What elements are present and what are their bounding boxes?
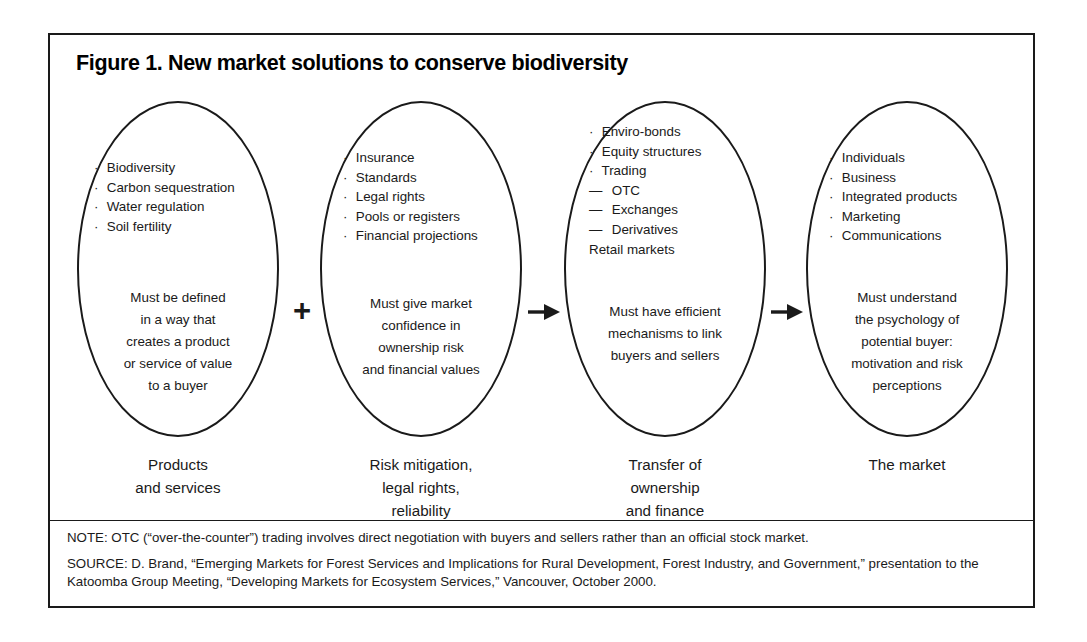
bullet-item: · Biodiversity xyxy=(94,158,266,178)
figure-frame: Figure 1. New market solutions to conser… xyxy=(48,33,1035,608)
bullet-label: Carbon sequestration xyxy=(103,180,235,195)
bullet-label: Individuals xyxy=(838,150,905,165)
bullet-item: · Communications xyxy=(829,226,995,246)
bullet-dot-icon: · xyxy=(94,178,103,198)
stage-description: Must understandthe psychology ofpotentia… xyxy=(812,287,1002,397)
bullet-dot-icon: · xyxy=(343,226,352,246)
bullet-label: Communications xyxy=(838,228,941,243)
note-footnote: NOTE: OTC (“over-the-counter”) trading i… xyxy=(67,529,1017,548)
bullet-label: Insurance xyxy=(352,150,415,165)
bullet-label: Business xyxy=(838,170,896,185)
stage-caption: The market xyxy=(802,453,1012,476)
bullet-label: Financial projections xyxy=(352,228,478,243)
bullet-item: · Trading xyxy=(589,161,753,181)
bullet-item: · Marketing xyxy=(829,207,995,227)
bullet-label: Soil fertility xyxy=(103,219,171,234)
bullet-item: · Business xyxy=(829,168,995,188)
stage-bullet-list: · Enviro-bonds· Equity structures· Tradi… xyxy=(557,122,759,259)
bullet-dot-icon: · xyxy=(343,207,352,227)
bullet-dot-icon: · xyxy=(589,161,598,181)
bullet-dash-icon: — xyxy=(589,181,608,201)
stage-bullet-list: · Individuals· Business· Integrated prod… xyxy=(799,148,1001,246)
bullet-dot-icon: · xyxy=(589,122,598,142)
bullet-dot-icon: · xyxy=(829,148,838,168)
stage-transfer-of-ownership: · Enviro-bonds· Equity structures· Tradi… xyxy=(557,101,773,541)
bullet-item: · Equity structures xyxy=(589,142,753,162)
bullet-item: · Standards xyxy=(343,168,509,188)
bullet-dash-icon: — xyxy=(589,200,608,220)
stage-the-market: · Individuals· Business· Integrated prod… xyxy=(799,101,1015,541)
bullet-item: Retail markets xyxy=(589,240,753,260)
figure-title: Figure 1. New market solutions to conser… xyxy=(76,51,628,76)
source-footnote: SOURCE: D. Brand, “Emerging Markets for … xyxy=(67,555,1017,592)
bullet-dot-icon: · xyxy=(829,187,838,207)
bullet-item: · Carbon sequestration xyxy=(94,178,266,198)
bullet-dot-icon: · xyxy=(94,217,103,237)
bullet-item: · Soil fertility xyxy=(94,217,266,237)
bullet-item: · Financial projections xyxy=(343,226,509,246)
stage-bullet-list: · Biodiversity· Carbon sequestration· Wa… xyxy=(70,158,272,236)
bullet-label: Biodiversity xyxy=(103,160,175,175)
stage-description: Must give marketconfidence inownership r… xyxy=(326,293,516,381)
bullet-item: · Individuals xyxy=(829,148,995,168)
bullet-label: Legal rights xyxy=(352,189,425,204)
bullet-label: Pools or registers xyxy=(352,209,460,224)
bullet-dot-icon: · xyxy=(94,197,103,217)
stage-risk-mitigation: · Insurance· Standards· Legal rights· Po… xyxy=(313,101,529,541)
bullet-label: Enviro-bonds xyxy=(598,124,681,139)
bullet-label: Derivatives xyxy=(608,222,678,237)
bullet-dot-icon: · xyxy=(829,226,838,246)
bullet-item: — Derivatives xyxy=(589,220,753,240)
bullet-dash-icon: — xyxy=(589,220,608,240)
bullet-dot-icon: · xyxy=(343,148,352,168)
stage-caption: Risk mitigation,legal rights,reliability xyxy=(316,453,526,522)
bullet-dot-icon: · xyxy=(343,187,352,207)
stage-bullet-list: · Insurance· Standards· Legal rights· Po… xyxy=(313,148,515,246)
bullet-item: · Enviro-bonds xyxy=(589,122,753,142)
bullet-label: Integrated products xyxy=(838,189,957,204)
stage-caption: Transfer ofownershipand finance xyxy=(560,453,770,522)
bullet-dot-icon: · xyxy=(829,207,838,227)
source-label: SOURCE: xyxy=(67,556,128,571)
bullet-label: Marketing xyxy=(838,209,901,224)
bullet-label: Water regulation xyxy=(103,199,204,214)
footnotes: NOTE: OTC (“over-the-counter”) trading i… xyxy=(67,529,1017,592)
note-text: OTC (“over-the-counter”) trading involve… xyxy=(108,530,809,545)
bullet-dot-icon: · xyxy=(829,168,838,188)
bullet-item: — Exchanges xyxy=(589,200,753,220)
bullet-item: · Legal rights xyxy=(343,187,509,207)
bullet-label: OTC xyxy=(608,183,640,198)
bullet-item: — OTC xyxy=(589,181,753,201)
bullet-dot-icon: · xyxy=(343,168,352,188)
footnote-divider xyxy=(50,520,1033,521)
bullet-item: · Pools or registers xyxy=(343,207,509,227)
bullet-dot-icon: · xyxy=(94,158,103,178)
flow-diagram: · Biodiversity· Carbon sequestration· Wa… xyxy=(50,101,1033,541)
stage-caption: Productsand services xyxy=(73,453,283,499)
stage-description: Must have efficientmechanisms to linkbuy… xyxy=(570,301,760,367)
plus-icon: + xyxy=(293,295,311,326)
bullet-label: Exchanges xyxy=(608,202,678,217)
bullet-item: · Integrated products xyxy=(829,187,995,207)
stage-description: Must be definedin a way thatcreates a pr… xyxy=(83,287,273,397)
bullet-label: Trading xyxy=(598,163,646,178)
bullet-item: · Water regulation xyxy=(94,197,266,217)
note-label: NOTE: xyxy=(67,530,108,545)
stage-products-and-services: · Biodiversity· Carbon sequestration· Wa… xyxy=(70,101,286,541)
bullet-label: Equity structures xyxy=(598,144,701,159)
bullet-label: Retail markets xyxy=(589,242,675,257)
bullet-dot-icon: · xyxy=(589,142,598,162)
bullet-item: · Insurance xyxy=(343,148,509,168)
source-text: D. Brand, “Emerging Markets for Forest S… xyxy=(67,556,979,590)
bullet-label: Standards xyxy=(352,170,417,185)
